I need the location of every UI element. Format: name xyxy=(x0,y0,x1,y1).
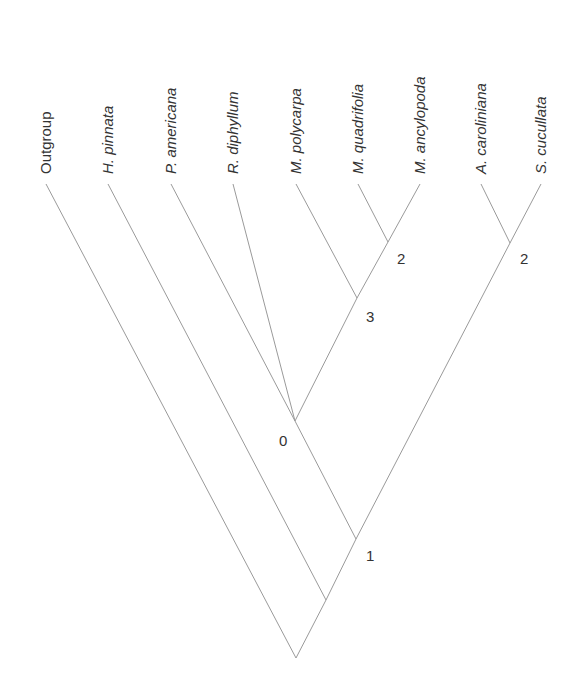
taxon-label: M. quadrifolia xyxy=(349,84,366,174)
node-label: 2 xyxy=(520,250,528,267)
branch-line xyxy=(481,184,510,243)
branch-line xyxy=(46,184,296,658)
taxon-label: M. ancylopoda xyxy=(411,76,428,174)
branch-line xyxy=(171,184,295,421)
branch-line xyxy=(295,298,357,421)
branch-line xyxy=(296,600,326,658)
taxon-label: P. americana xyxy=(162,88,179,174)
taxon-labels: OutgroupH. pinnataP. americanaR. diphyll… xyxy=(37,76,549,175)
node-label: 2 xyxy=(397,250,405,267)
taxon-label: R. diphyllum xyxy=(224,91,241,174)
branch-line xyxy=(233,184,295,421)
node-label: 1 xyxy=(366,547,374,564)
branch-line xyxy=(388,184,420,242)
taxon-label: S. cucullata xyxy=(532,96,549,174)
node-labels: 10322 xyxy=(279,250,528,564)
branch-line xyxy=(326,539,356,600)
branch-line xyxy=(108,184,326,600)
branch-line xyxy=(357,242,388,298)
taxon-label: A. caroliniana xyxy=(472,83,489,175)
cladogram: OutgroupH. pinnataP. americanaR. diphyll… xyxy=(0,0,574,683)
branches xyxy=(46,184,541,658)
taxon-label: H. pinnata xyxy=(99,106,116,174)
branch-line xyxy=(296,184,357,298)
branch-line xyxy=(356,243,510,539)
node-label: 3 xyxy=(366,308,374,325)
node-label: 0 xyxy=(279,432,287,449)
taxon-label: Outgroup xyxy=(37,111,54,174)
branch-line xyxy=(358,184,388,242)
branch-line xyxy=(295,421,356,539)
branch-line xyxy=(510,184,541,243)
taxon-label: M. polycarpa xyxy=(287,88,304,174)
